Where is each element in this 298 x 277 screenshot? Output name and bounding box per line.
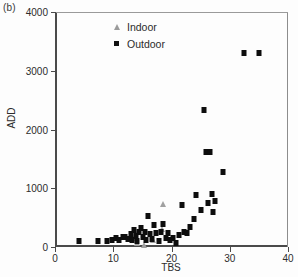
x-tick-mark (172, 247, 173, 252)
data-point-outdoor (193, 192, 198, 198)
y-axis-label: ADD (6, 107, 17, 128)
x-tick-label: 30 (224, 253, 235, 264)
data-point-outdoor (212, 198, 217, 204)
data-point-outdoor (149, 236, 154, 242)
plot-area: 01000200030004000 010203040 IndoorOutdoo… (55, 12, 288, 247)
data-point-outdoor (185, 230, 190, 236)
legend-marker-glyph (114, 24, 120, 30)
data-point-outdoor (156, 238, 161, 244)
x-tick-label: 10 (108, 253, 119, 264)
data-point-outdoor (144, 237, 149, 243)
y-tick-label: 0 (42, 242, 48, 253)
x-tick-mark (288, 247, 289, 252)
data-point-outdoor (146, 213, 151, 219)
x-tick-label: 0 (52, 253, 58, 264)
data-point-outdoor (135, 238, 140, 244)
data-point-outdoor (211, 209, 216, 215)
data-point-outdoor (174, 240, 179, 246)
x-tick-mark (230, 247, 231, 252)
data-point-indoor (141, 242, 147, 248)
data-point-outdoor (188, 224, 193, 230)
data-point-outdoor (206, 200, 211, 206)
legend-item-outdoor: Outdoor (113, 35, 165, 52)
data-point-outdoor (191, 216, 196, 222)
square-marker-icon (113, 41, 120, 46)
legend-label: Indoor (127, 21, 157, 33)
data-point-outdoor (95, 238, 100, 244)
data-point-outdoor (221, 169, 226, 175)
y-tick-label: 2000 (26, 124, 48, 135)
legend-label: Outdoor (127, 38, 165, 50)
data-point-outdoor (179, 202, 184, 208)
x-tick-mark (113, 247, 114, 252)
x-tick-label: 20 (166, 253, 177, 264)
y-tick-mark (51, 12, 56, 13)
data-point-outdoor (256, 50, 261, 56)
data-point-outdoor (207, 149, 212, 155)
y-tick-label: 3000 (26, 65, 48, 76)
data-point-indoor (160, 201, 166, 207)
legend-item-indoor: Indoor (113, 18, 165, 35)
data-point-outdoor (177, 232, 182, 238)
y-tick-label: 4000 (26, 7, 48, 18)
panel-label: (b) (3, 2, 16, 13)
data-point-outdoor (202, 107, 207, 113)
legend: IndoorOutdoor (113, 18, 165, 52)
y-tick-mark (51, 130, 56, 131)
figure-panel-b: (b) ADD TBS 01000200030004000 010203040 … (0, 0, 298, 277)
x-tick-mark (55, 247, 56, 252)
data-point-outdoor (209, 191, 214, 197)
right-spine (287, 12, 288, 247)
y-tick-label: 1000 (26, 183, 48, 194)
data-point-outdoor (161, 221, 166, 227)
triangle-marker-icon (113, 24, 120, 30)
y-tick-mark (51, 71, 56, 72)
y-tick-mark (51, 188, 56, 189)
data-point-outdoor (199, 207, 204, 213)
data-point-outdoor (152, 222, 157, 228)
top-spine (55, 12, 288, 13)
legend-marker-glyph (114, 41, 119, 46)
data-point-outdoor (241, 50, 246, 56)
x-tick-label: 40 (282, 253, 293, 264)
data-point-outdoor (77, 238, 82, 244)
